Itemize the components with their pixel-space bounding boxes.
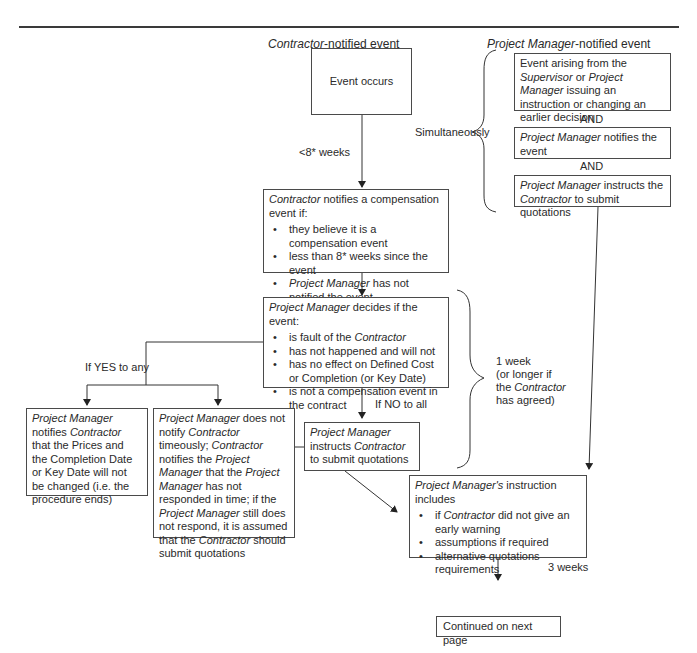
event-occurs-text: Event occurs [330,75,394,89]
continued-next-page-box[interactable]: Continued on next page [436,616,561,637]
eight-weeks-label: <8* weeks [299,146,350,160]
event-occurs-box: Event occurs [311,48,412,115]
condition-item: less than 8* weeks since the event [283,250,443,277]
pm-decision-box: Project Manager decides if the event: is… [263,297,449,388]
yes-branch-label: If YES to any [85,361,149,375]
instruction-item: assumptions if required [429,536,581,550]
contractor-notifies-box: Contractor notifies a compensation event… [263,189,449,273]
criteria-item: has no effect on Defined Cost or Complet… [283,358,443,385]
pm-instruction-includes-box: Project Manager's instruction includes i… [409,475,587,558]
decision-intro: Project Manager decides if the event: [269,301,443,328]
pm-notifies-box: Project Manager notifies the event [514,127,671,159]
condition-item: they believe it is a compensation event [283,223,443,250]
no-branch-label: If NO to all [375,398,427,412]
instruction-intro: Project Manager's instruction includes [415,479,581,506]
pm-instructs-quotations-box: Project Manager instructs the Contractor… [514,175,671,207]
three-weeks-label: 3 weeks [548,561,588,575]
instruction-item: if Contractor did not give an early warn… [429,509,581,536]
pm-instructs-box: Project Manager instructs Contractor to … [304,422,420,471]
pm-not-timeous-box: Project Manager does not notify Contract… [153,408,295,538]
contractor-conditions-list: they believe it is a compensation event … [269,223,443,304]
criteria-item: has not happened and will not [283,345,443,359]
and-label-2: AND [580,160,603,174]
criteria-item: is fault of the Contractor [283,331,443,345]
simultaneously-label: Simultaneously [415,126,490,140]
pm-event-arising-box: Event arising from the Supervisor or Pro… [514,53,671,111]
pm-no-change-box: Project Manager notifies Contractor that… [26,408,148,496]
one-week-label: 1 week (or longer if the Contractor has … [496,355,566,407]
contractor-notifies-intro: Contractor notifies a compensation event… [269,193,443,220]
and-label-1: AND [580,113,603,127]
